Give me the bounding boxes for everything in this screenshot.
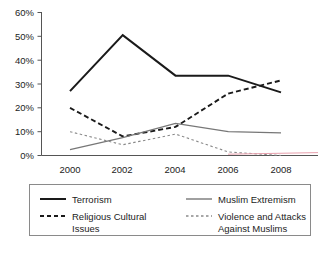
legend-label: Terrorism	[72, 194, 112, 205]
x-tick-label: 2008	[270, 164, 291, 175]
legend-label-line2: Issues	[72, 223, 100, 234]
x-tick-label: 2004	[164, 164, 185, 175]
y-tick-label: 60%	[15, 7, 35, 18]
y-tick-label: 50%	[15, 31, 35, 42]
y-tick-label: 30%	[15, 79, 35, 90]
line-chart-figure: 60% 50% 40% 30% 20% 10% 0% 2000 2002 200…	[0, 0, 327, 257]
chart-canvas: 60% 50% 40% 30% 20% 10% 0% 2000 2002 200…	[0, 0, 327, 257]
y-tick-label: 20%	[15, 102, 35, 113]
legend-label-line2: Against Muslims	[218, 223, 287, 234]
y-tick-label: 0%	[20, 150, 34, 161]
legend-label: Violence and Attacks	[218, 211, 306, 222]
y-tick-label: 40%	[15, 55, 35, 66]
legend-label: Muslim Extremism	[218, 194, 296, 205]
x-tick-label: 2006	[217, 164, 238, 175]
y-tick-label: 10%	[15, 126, 35, 137]
x-tick-label: 2000	[59, 164, 80, 175]
legend-label: Religious Cultural	[72, 211, 146, 222]
x-tick-label: 2002	[111, 164, 132, 175]
